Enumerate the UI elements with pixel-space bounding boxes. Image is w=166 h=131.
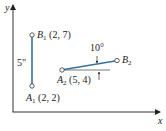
point-b2-marker: [115, 58, 119, 62]
rotation-angle-label: 10°: [90, 43, 104, 53]
point-a1-label: A1 (2, 2): [26, 93, 60, 105]
point-a2-label: A2 (5, 4): [57, 75, 91, 87]
point-b1-marker: [30, 33, 34, 37]
segment-a1-b1: [30, 33, 34, 88]
displacement-diagram: y x B1 (2, 7) A1 (2, 2) A2 (5, 4) B2 5" …: [0, 0, 166, 131]
point-b2-label: B2: [122, 55, 132, 67]
angle-arrows: [97, 56, 99, 80]
y-axis-label: y: [5, 3, 9, 13]
x-axis-label: x: [158, 116, 162, 126]
point-a1-marker: [30, 84, 34, 88]
segment-length-label: 5": [17, 58, 26, 68]
point-a2-marker: [60, 68, 64, 72]
point-b1-label: B1 (2, 7): [37, 30, 71, 42]
